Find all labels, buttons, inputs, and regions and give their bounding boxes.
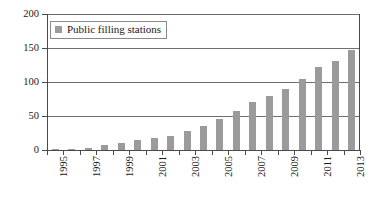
bar-chart: 200 150 100 50 0 19951997199920012003200… xyxy=(0,0,379,197)
x-axis-label-2013: 2013 xyxy=(356,156,366,177)
x-axis-label-1999: 1999 xyxy=(125,156,135,177)
bar-2007 xyxy=(245,14,261,150)
x-axis-tick-2013 xyxy=(344,150,345,155)
x-axis-tick-1997 xyxy=(80,150,81,155)
bar-rect-2010 xyxy=(299,79,306,150)
bar-rect-2008 xyxy=(266,96,273,150)
x-axis-tick-1996 xyxy=(63,150,64,155)
bar-rect-2011 xyxy=(315,67,322,150)
x-axis-label-2009: 2009 xyxy=(290,156,300,177)
x-axis-tick-2009 xyxy=(278,150,279,155)
bar-2006 xyxy=(228,14,244,150)
x-axis-label-2003: 2003 xyxy=(191,156,201,177)
y-axis-label-50: 50 xyxy=(29,111,40,121)
bar-2010 xyxy=(294,14,310,150)
bar-2013 xyxy=(344,14,360,150)
bar-2004 xyxy=(195,14,211,150)
bar-2009 xyxy=(278,14,294,150)
x-axis-tick-2008 xyxy=(261,150,262,155)
x-axis-tick-1995 xyxy=(47,150,48,155)
x-axis-label-2005: 2005 xyxy=(224,156,234,177)
x-axis-tick-2004 xyxy=(195,150,196,155)
bar-rect-2006 xyxy=(233,111,240,150)
bar-rect-2007 xyxy=(249,102,256,150)
x-axis-label-1995: 1995 xyxy=(59,156,69,177)
legend: Public filling stations xyxy=(50,21,167,39)
y-axis-label-150: 150 xyxy=(23,43,39,53)
bar-rect-2004 xyxy=(200,126,207,150)
y-axis: 200 150 100 50 0 xyxy=(0,0,47,197)
bar-rect-2001 xyxy=(151,138,158,150)
legend-swatch-icon xyxy=(55,26,62,33)
x-axis-label-2001: 2001 xyxy=(158,156,168,177)
y-axis-label-200: 200 xyxy=(23,9,39,19)
y-axis-label-100: 100 xyxy=(23,77,39,87)
x-axis-label-1997: 1997 xyxy=(92,156,102,177)
x-axis-tick-2012 xyxy=(327,150,328,155)
bar-2012 xyxy=(327,14,343,150)
bar-2011 xyxy=(311,14,327,150)
bar-rect-2009 xyxy=(282,89,289,150)
x-axis-tick-2000 xyxy=(129,150,130,155)
x-axis-tick-2006 xyxy=(228,150,229,155)
bar-rect-2005 xyxy=(216,119,223,150)
bar-2008 xyxy=(261,14,277,150)
x-axis-tick-1998 xyxy=(96,150,97,155)
bar-rect-2000 xyxy=(134,140,141,150)
bar-2005 xyxy=(212,14,228,150)
x-axis-tick-end xyxy=(360,150,361,155)
x-axis-tick-2003 xyxy=(179,150,180,155)
bar-rect-2002 xyxy=(167,136,174,150)
bar-2003 xyxy=(179,14,195,150)
x-axis-tick-2007 xyxy=(245,150,246,155)
bar-rect-1999 xyxy=(118,143,125,150)
y-axis-label-0: 0 xyxy=(34,145,39,155)
x-axis-label-2007: 2007 xyxy=(257,156,267,177)
legend-label: Public filling stations xyxy=(67,23,161,36)
bar-rect-2013 xyxy=(348,50,355,150)
x-axis-tick-2005 xyxy=(212,150,213,155)
x-axis-tick-1999 xyxy=(113,150,114,155)
bar-rect-2012 xyxy=(332,61,339,150)
x-axis-tick-2011 xyxy=(311,150,312,155)
x-axis-tick-2002 xyxy=(162,150,163,155)
bar-rect-2003 xyxy=(184,131,191,150)
x-axis-tick-2010 xyxy=(294,150,295,155)
x-axis-labels: 1995199719992001200320052007200920112013 xyxy=(47,156,360,197)
x-axis-label-2011: 2011 xyxy=(323,156,333,177)
x-axis-tick-2001 xyxy=(146,150,147,155)
